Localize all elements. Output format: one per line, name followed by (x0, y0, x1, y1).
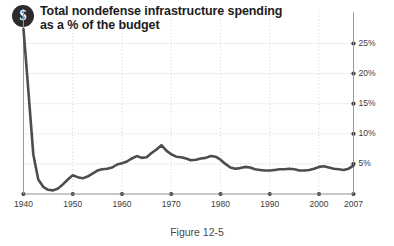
x-axis-label: 1980 (211, 199, 230, 209)
y-axis-label: 15% (359, 98, 376, 108)
y-axis-label: 5% (359, 158, 371, 168)
x-axis-label: 1950 (63, 199, 82, 209)
chart-svg (0, 0, 394, 246)
y-axis-label: 25% (359, 38, 376, 48)
figure-container: $ Total nondefense infrastructure spendi… (0, 0, 394, 246)
x-axis-label: 2000 (310, 199, 329, 209)
y-axis-label: 10% (359, 128, 376, 138)
x-axis-label: 1940 (14, 199, 33, 209)
figure-caption: Figure 12-5 (0, 226, 394, 238)
x-axis-label: 1970 (162, 199, 181, 209)
x-axis-label: 2007 (344, 199, 363, 209)
x-axis-label: 1960 (113, 199, 132, 209)
y-axis-label: 20% (359, 68, 376, 78)
chart-plot-area: 5%10%15%20%25%19401950196019701980199020… (0, 0, 394, 246)
x-axis-label: 1990 (260, 199, 279, 209)
